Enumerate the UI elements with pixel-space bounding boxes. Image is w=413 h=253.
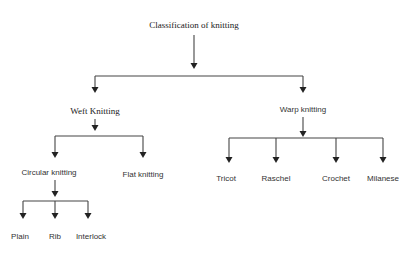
arrow-icon	[191, 63, 198, 69]
node-milanese: Milanese	[367, 174, 399, 183]
knitting-classification-diagram: Classification of knitting Weft Knitting…	[0, 0, 413, 253]
arrow-icon	[52, 152, 59, 158]
arrow-icon	[300, 87, 307, 93]
arrow-icon	[52, 213, 59, 219]
node-weft-knitting: Weft Knitting	[70, 106, 120, 116]
node-raschel: Raschel	[262, 174, 291, 183]
arrow-icon	[300, 131, 307, 137]
node-tricot: Tricot	[216, 174, 236, 183]
arrow-icon	[52, 191, 59, 197]
arrow-icon	[92, 87, 99, 93]
arrow-icon	[273, 157, 280, 163]
arrow-icon	[92, 125, 99, 131]
node-root: Classification of knitting	[149, 20, 239, 30]
arrow-icon	[333, 157, 340, 163]
arrow-icon	[226, 157, 233, 163]
node-interlock: Interlock	[76, 232, 106, 241]
node-flat-knitting: Flat knitting	[123, 170, 164, 179]
arrow-icon	[85, 213, 92, 219]
connector-lines	[0, 0, 413, 253]
arrow-icon	[380, 157, 387, 163]
arrow-icon	[140, 152, 147, 158]
arrow-icon	[20, 213, 27, 219]
node-crochet: Crochet	[322, 174, 350, 183]
node-plain: Plain	[11, 232, 29, 241]
node-circular-knitting: Circular knitting	[21, 168, 76, 177]
node-rib: Rib	[49, 232, 61, 241]
node-warp-knitting: Warp knitting	[280, 105, 326, 114]
